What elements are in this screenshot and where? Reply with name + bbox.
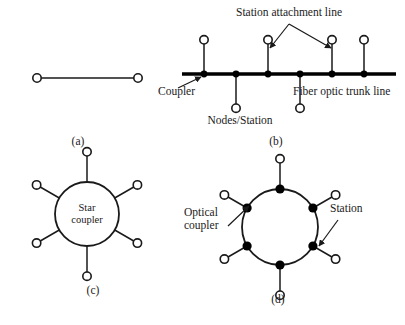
star-spoke <box>115 187 134 198</box>
optical-coupler-node[interactable] <box>308 241 317 250</box>
optical-coupler-node[interactable] <box>275 184 284 193</box>
panel-d-ring: OpticalcouplerStation(d) <box>184 155 363 306</box>
station-attachment-line-arrow <box>270 24 289 48</box>
station-label-line1: Station <box>330 202 363 214</box>
station-node[interactable] <box>328 36 336 44</box>
station-node[interactable] <box>296 104 304 112</box>
coupler-label: Coupler <box>158 85 195 98</box>
star-spoke <box>40 230 59 241</box>
station-node[interactable] <box>331 191 339 199</box>
panel-label-c: (c) <box>87 284 100 297</box>
panel-c-star: Starcoupler(c) <box>32 148 141 297</box>
station-node[interactable] <box>133 239 141 247</box>
panel-label-a: (a) <box>72 135 85 148</box>
panel-label-b: (b) <box>269 135 283 148</box>
star-coupler-label-line2: coupler <box>71 214 103 225</box>
optical-coupler-label-line1: Optical <box>184 206 218 219</box>
station-node[interactable] <box>331 255 339 263</box>
optical-coupler-label-line2: coupler <box>184 219 219 232</box>
panel-label-d: (d) <box>271 293 285 306</box>
station-node[interactable] <box>220 191 228 199</box>
station-node[interactable] <box>276 155 284 163</box>
station-node[interactable] <box>32 181 40 189</box>
coupler-node[interactable] <box>265 71 272 78</box>
station-node[interactable] <box>264 36 272 44</box>
station-arrow <box>319 220 338 246</box>
station-node[interactable] <box>32 239 40 247</box>
station-attachment-line-label: Station attachment line <box>236 6 342 18</box>
panel-b-bus: Station attachment lineCouplerFiber opti… <box>158 6 396 148</box>
ring-trunk <box>242 189 318 265</box>
station-node[interactable] <box>83 148 91 156</box>
station-node[interactable] <box>360 36 368 44</box>
panel-a-point-to-point: (a) <box>33 74 142 148</box>
station-node[interactable] <box>134 74 142 82</box>
station-attachment-line-arrow <box>289 24 331 48</box>
station-node[interactable] <box>133 181 141 189</box>
coupler-node[interactable] <box>329 71 336 78</box>
station-node[interactable] <box>83 272 91 280</box>
star-spoke <box>115 230 134 241</box>
station-node[interactable] <box>33 74 41 82</box>
figure-canvas: (a) Station attachment lineCouplerFiber … <box>0 0 405 325</box>
coupler-node[interactable] <box>361 71 368 78</box>
nodes-station-label: Nodes/Station <box>207 114 272 126</box>
optical-coupler-node[interactable] <box>308 203 317 212</box>
topology-diagram-svg: (a) Station attachment lineCouplerFiber … <box>0 0 405 325</box>
coupler-node[interactable] <box>233 71 240 78</box>
station-node[interactable] <box>232 104 240 112</box>
star-coupler-label-line1: Star <box>79 202 96 213</box>
station-node[interactable] <box>200 36 208 44</box>
optical-coupler-node[interactable] <box>242 241 251 250</box>
fiber-optic-trunk-line-label: Fiber optic trunk line <box>293 85 390 98</box>
coupler-node[interactable] <box>297 71 304 78</box>
optical-coupler-node[interactable] <box>275 260 284 269</box>
coupler-node[interactable] <box>201 71 208 78</box>
star-spoke <box>40 187 59 198</box>
station-node[interactable] <box>220 255 228 263</box>
